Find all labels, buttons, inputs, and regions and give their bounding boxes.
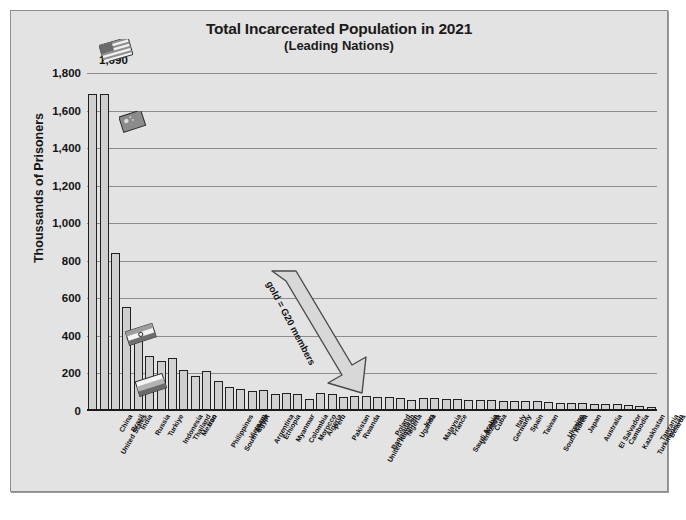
y-tick-label: 1,400 bbox=[52, 142, 81, 154]
bar bbox=[179, 370, 188, 411]
y-tick-label: 1,000 bbox=[52, 217, 81, 229]
bar bbox=[214, 381, 223, 411]
y-tick-label: 400 bbox=[62, 330, 81, 342]
y-tick-label: 800 bbox=[62, 255, 81, 267]
bar bbox=[100, 94, 109, 411]
india-flag-icon bbox=[125, 323, 159, 351]
chart-figure: Total Incarcerated Population in 2021 (L… bbox=[10, 10, 668, 492]
y-tick-label: 0 bbox=[75, 405, 81, 417]
x-axis-tick-labels: United StatesChinaBrazilIndiaRussiaTurki… bbox=[87, 413, 657, 499]
china-flag-icon bbox=[119, 111, 147, 137]
bar bbox=[168, 358, 177, 411]
bar bbox=[225, 387, 234, 411]
bar bbox=[236, 389, 245, 411]
x-tick-label: Egypt bbox=[255, 413, 272, 434]
bar bbox=[259, 390, 268, 411]
bar bbox=[191, 376, 200, 411]
y-tick-label: 200 bbox=[62, 367, 81, 379]
y-tick-label: 1,800 bbox=[52, 67, 81, 79]
x-axis-line bbox=[87, 409, 657, 411]
us-flag-icon bbox=[99, 39, 133, 65]
bar bbox=[111, 253, 120, 411]
plot-area: 02004006008001,0001,2001,4001,6001,800 1… bbox=[87, 73, 657, 411]
y-tick-label: 600 bbox=[62, 292, 81, 304]
russia-flag-icon bbox=[135, 373, 169, 401]
y-tick-label: 1,200 bbox=[52, 180, 81, 192]
bar bbox=[88, 94, 97, 411]
y-axis-title: Thoussands of Prisoners bbox=[32, 68, 46, 308]
bar-series bbox=[87, 73, 657, 411]
y-tick-label: 1,600 bbox=[52, 105, 81, 117]
page-title: Total Incarcerated Population in 2021 bbox=[11, 19, 667, 38]
bar bbox=[202, 371, 211, 411]
